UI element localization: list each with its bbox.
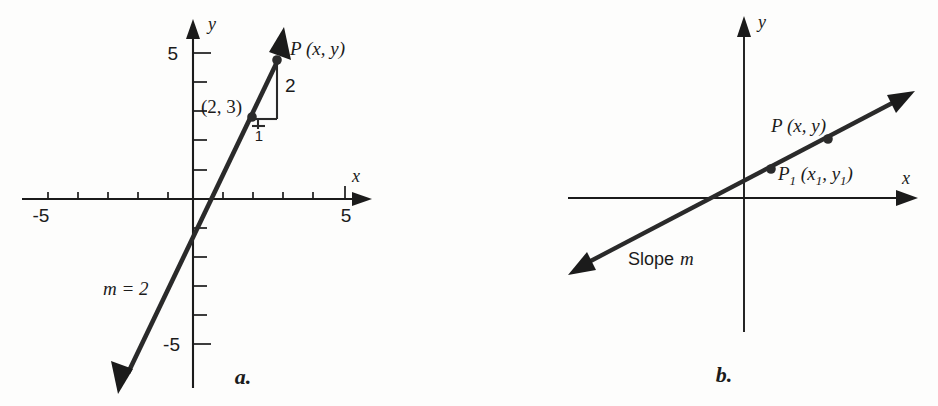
panel-b-P1-close: ) xyxy=(846,163,853,185)
panel-b-point-label-P1: P1 (x1, y1) xyxy=(777,163,853,188)
panel-b-group: y x P (x, y) P1 (x1, y1) Slopem b. xyxy=(568,12,918,387)
panel-a-ytick-label-5: 5 xyxy=(167,43,178,64)
panel-b-P1-base: P xyxy=(777,163,790,184)
panel-a-run-label: 1 xyxy=(255,127,263,144)
panel-b-slope-symbol: m xyxy=(680,248,694,269)
figure-root: 5 -5 -5 5 y x (2, 3) P (x, y) 2 1 m = 2 … xyxy=(0,0,938,406)
panel-a-y-axis-label: y xyxy=(206,14,216,34)
panel-b-caption: b. xyxy=(716,362,733,387)
panel-b-slope-label: Slopem xyxy=(628,248,694,269)
panel-a-ytick-label-neg5: -5 xyxy=(163,334,180,355)
panel-b-y-axis-label: y xyxy=(756,12,766,32)
panel-a-xtick-label-neg5: -5 xyxy=(33,205,50,226)
panel-a-line-arrowhead-up xyxy=(269,27,291,60)
slope-figure-svg: 5 -5 -5 5 y x (2, 3) P (x, y) 2 1 m = 2 … xyxy=(0,0,938,406)
panel-a-slope-label: m = 2 xyxy=(103,278,149,299)
panel-b-point-label-P: P (x, y) xyxy=(770,115,826,137)
panel-b-x-axis-arrowhead xyxy=(896,190,918,206)
panel-a-y-axis-arrowhead xyxy=(186,19,200,39)
panel-a-xtick-label-5: 5 xyxy=(341,205,352,226)
panel-b-line-arrowhead-lower xyxy=(568,252,596,275)
panel-a-caption: a. xyxy=(235,364,252,389)
panel-b-y-axis-arrowhead xyxy=(737,16,751,37)
panel-a-x-axis-arrowhead xyxy=(352,192,372,206)
panel-a-point-label-2-3: (2, 3) xyxy=(201,96,242,118)
panel-a-x-axis-label: x xyxy=(351,166,360,186)
panel-b-x-axis-label: x xyxy=(901,168,910,188)
panel-b-P1-open: (x xyxy=(796,163,816,185)
panel-a-point-2-3-dot xyxy=(247,112,257,122)
panel-b-P1-mid: , y xyxy=(822,163,841,184)
panel-b-line-arrowhead-upper xyxy=(887,91,915,113)
panel-a-point-P-dot xyxy=(272,55,282,65)
panel-a-group: 5 -5 -5 5 y x (2, 3) P (x, y) 2 1 m = 2 … xyxy=(22,14,372,394)
panel-b-point-P1-dot xyxy=(766,164,776,174)
panel-a-x-ticks xyxy=(48,186,345,199)
panel-a-point-label-P: P (x, y) xyxy=(289,38,345,60)
panel-b-slope-word: Slope xyxy=(628,249,674,269)
panel-a-rise-label: 2 xyxy=(285,75,296,96)
